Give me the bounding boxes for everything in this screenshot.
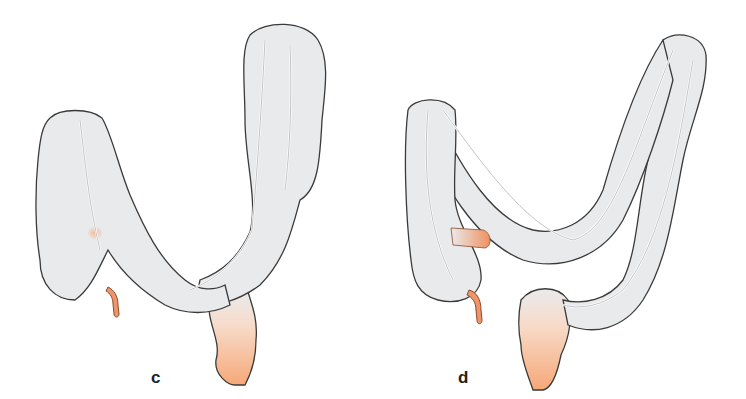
panel-d: d — [373, 0, 746, 399]
descending-colon-c — [195, 24, 326, 305]
panel-c: c — [0, 0, 373, 399]
rectum-d — [519, 289, 570, 390]
panel-label-c: c — [151, 368, 160, 388]
appendix-c — [106, 287, 119, 317]
colon-diagram-c — [0, 0, 373, 399]
terminal-ileum-d — [451, 228, 490, 248]
appendix-d — [467, 290, 482, 324]
colon-diagram-d — [373, 0, 746, 399]
panel-label-d: d — [458, 368, 468, 388]
